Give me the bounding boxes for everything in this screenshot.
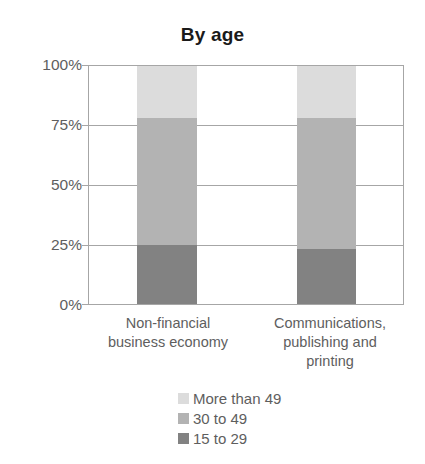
legend-label: More than 49 [193, 390, 281, 407]
x-axis-label-line: Communications, [240, 314, 420, 333]
bar-segment [297, 249, 356, 304]
legend-swatch-icon [178, 393, 189, 404]
legend-label: 30 to 49 [193, 410, 247, 427]
bar-communications-publishing-and-printing [297, 66, 356, 304]
y-axis-label-100: 100% [26, 56, 82, 74]
legend-label: 15 to 29 [193, 430, 247, 447]
chart-container: By age 100% 75% 50% 25% 0% Non-financial… [0, 0, 425, 464]
legend-item-15-to-29: 15 to 29 [178, 429, 378, 448]
x-axis-label-communications-publishing-and-printing: Communications, publishing and printing [240, 314, 420, 371]
x-axis-label-line: business economy [70, 333, 266, 352]
bar-segment [137, 66, 197, 118]
chart-legend: More than 49 30 to 49 15 to 29 [178, 389, 378, 449]
plot-area [88, 65, 404, 305]
bar-segment [297, 66, 356, 118]
chart-title: By age [0, 24, 425, 46]
legend-swatch-icon [178, 433, 189, 444]
y-axis-labels: 100% 75% 50% 25% 0% [20, 65, 82, 305]
legend-item-more-than-49: More than 49 [178, 389, 378, 408]
x-axis-label-line: publishing and [240, 333, 420, 352]
bar-segment [297, 118, 356, 249]
x-axis-label-non-financial-business-economy: Non-financial business economy [70, 314, 266, 352]
y-axis-label-0: 0% [26, 296, 82, 314]
legend-swatch-icon [178, 413, 189, 424]
bar-segment [137, 245, 197, 305]
y-axis-label-25: 25% [26, 236, 82, 254]
x-axis-label-line: Non-financial [70, 314, 266, 333]
legend-item-30-to-49: 30 to 49 [178, 409, 378, 428]
bar-segment [137, 118, 197, 244]
y-axis-label-75: 75% [26, 116, 82, 134]
bar-non-financial-business-economy [137, 66, 197, 304]
y-axis-label-50: 50% [26, 176, 82, 194]
x-axis-label-line: printing [240, 352, 420, 371]
